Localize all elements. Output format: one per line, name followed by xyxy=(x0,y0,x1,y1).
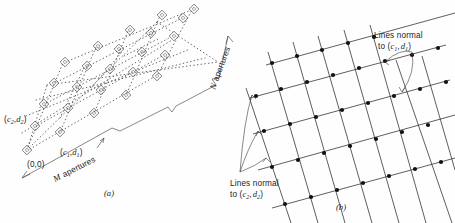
annotation-normal-c1d1: Lines normal to (c1,d1) xyxy=(374,31,423,52)
panel-b-leaders-c1d1 xyxy=(385,51,413,92)
annotation-c2d2-line2: to (c2,d2) xyxy=(230,189,263,200)
annotation-c2d2-line1: Lines normal xyxy=(230,179,279,188)
panel-a-frame xyxy=(22,36,233,178)
label-vector-c2d2: (c2,d2) xyxy=(4,114,27,125)
panel-b-shallow-lines xyxy=(250,13,455,208)
panel-a-caption: (a) xyxy=(104,188,114,198)
panel-a: (0,0) (c1,d1) (c2,d2) Mapertures Naper xyxy=(4,4,233,198)
label-vector-c1d1: (c1,d1) xyxy=(60,147,83,158)
panel-b: Lines normal to (c1,d1) Lines normal to … xyxy=(230,13,455,223)
panel-a-labels: (0,0) (c1,d1) (c2,d2) Mapertures Naper xyxy=(4,45,232,198)
annotation-normal-c2d2: Lines normal to (c2,d2) xyxy=(230,179,279,200)
figure-container: (0,0) (c1,d1) (c2,d2) Mapertures Naper xyxy=(0,0,455,223)
label-n-apertures: Napertures xyxy=(207,45,232,91)
panel-a-apertures xyxy=(22,4,199,155)
panel-b-caption: (b) xyxy=(336,202,346,212)
label-origin: (0,0) xyxy=(27,160,45,169)
annotation-c1d1-line1: Lines normal xyxy=(374,31,423,40)
annotation-c1d1-line2: to (c1,d1) xyxy=(378,41,411,52)
